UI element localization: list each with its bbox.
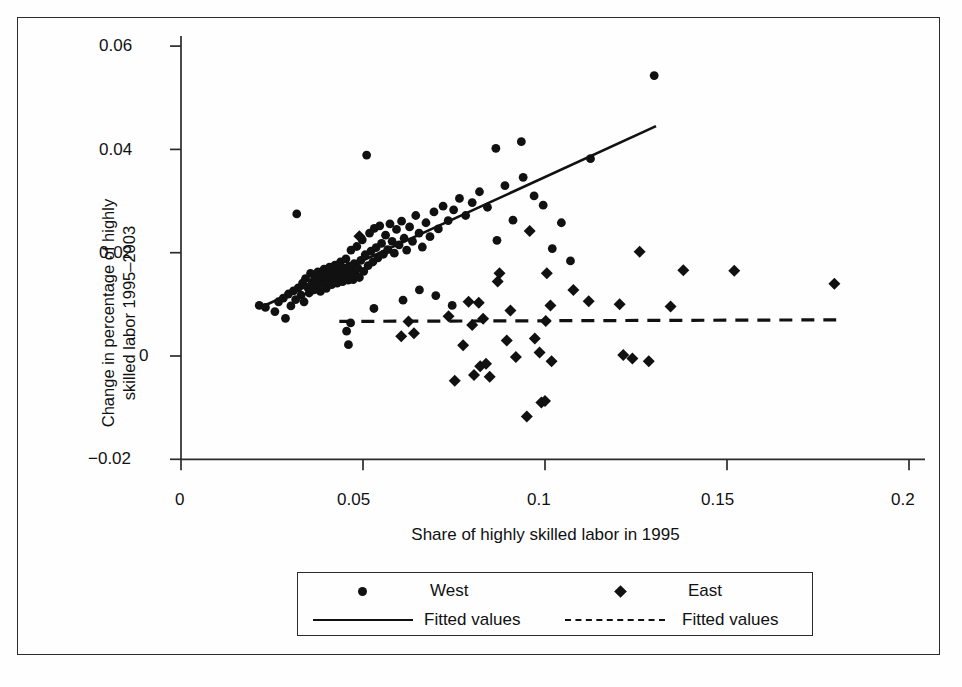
x-tick-label-2: 0.1: [527, 490, 551, 510]
data-point-east: [634, 246, 646, 258]
data-point-east: [728, 265, 740, 277]
data-point-west: [566, 257, 575, 266]
data-point-east: [534, 346, 546, 358]
data-point-west: [370, 304, 379, 313]
data-point-west: [539, 201, 548, 210]
legend-marker-east: [556, 575, 684, 607]
legend-label-west-fit: Fitted values: [424, 604, 520, 636]
data-point-west: [431, 291, 440, 300]
data-point-west: [408, 237, 417, 246]
data-point-east: [614, 298, 626, 310]
data-point-west: [415, 229, 424, 238]
data-point-west: [483, 203, 492, 212]
data-point-east: [457, 339, 469, 351]
data-point-east: [529, 332, 541, 344]
data-point-east: [477, 313, 489, 325]
data-point-west: [548, 244, 557, 253]
y-tick-label-1: 0.04: [99, 140, 132, 160]
data-point-west: [399, 296, 408, 305]
data-point-west: [455, 194, 464, 203]
x-tick-label-0: 0: [175, 490, 184, 510]
data-point-west: [377, 239, 386, 248]
data-point-east: [677, 264, 689, 276]
data-point-west: [344, 340, 353, 349]
data-point-west: [346, 319, 355, 328]
data-point-west: [430, 207, 439, 216]
data-point-west: [501, 181, 510, 190]
data-point-west: [448, 301, 457, 310]
y-axis-label-line2: skilled labor 1995–2003: [119, 148, 140, 478]
data-point-west: [586, 154, 595, 163]
data-point-east: [510, 351, 522, 363]
data-point-west: [519, 173, 528, 182]
data-point-west: [300, 297, 309, 306]
figure-panel: Change in percentage of highly skilled l…: [0, 0, 962, 687]
data-point-east: [541, 267, 553, 279]
legend-label-east: East: [688, 575, 722, 607]
legend-marker-east-fit: [560, 604, 670, 636]
data-point-west: [444, 216, 453, 225]
data-point-west: [426, 232, 435, 241]
y-tick-label-4: −0.02: [88, 449, 131, 469]
data-point-west: [400, 234, 409, 243]
y-axis-label-line1: Change in percentage of highly: [98, 148, 119, 478]
data-point-east: [484, 371, 496, 383]
data-point-west: [390, 249, 399, 258]
data-point-west: [405, 222, 414, 231]
data-point-west: [475, 187, 484, 196]
data-point-west: [381, 231, 390, 240]
data-point-west: [493, 236, 502, 245]
data-point-east: [544, 299, 556, 311]
data-point-west: [418, 243, 427, 252]
data-point-east: [567, 284, 579, 296]
data-point-east: [546, 355, 558, 367]
data-point-west: [397, 217, 406, 226]
data-point-west: [362, 151, 371, 160]
data-point-west: [422, 218, 431, 227]
data-point-east: [473, 297, 485, 309]
data-point-east: [643, 355, 655, 367]
data-point-east: [583, 295, 595, 307]
data-point-east: [540, 315, 552, 327]
data-point-east: [665, 300, 677, 312]
legend-marker-west: [298, 575, 426, 607]
legend-marker-west-fit: [308, 604, 418, 636]
data-point-east: [504, 305, 516, 317]
legend-label-west: West: [430, 575, 468, 607]
data-point-west: [292, 210, 301, 219]
data-point-west: [271, 307, 280, 316]
data-point-east: [468, 369, 480, 381]
data-point-east: [494, 267, 506, 279]
data-point-west: [281, 314, 290, 323]
data-point-east: [501, 335, 513, 347]
data-point-west: [491, 144, 500, 153]
data-point-west: [261, 303, 270, 312]
data-point-west: [402, 246, 411, 255]
data-point-east: [524, 225, 536, 237]
data-point-west: [375, 221, 384, 230]
data-point-east: [828, 278, 840, 290]
x-tick-label-3: 0.15: [701, 490, 734, 510]
data-point-east: [521, 410, 533, 422]
y-tick-label-0: 0.06: [99, 36, 132, 56]
data-point-west: [557, 218, 566, 227]
data-point-west: [449, 205, 458, 214]
data-point-west: [439, 202, 448, 211]
x-axis-label: Share of highly skilled labor in 1995: [181, 525, 910, 545]
data-point-east: [408, 327, 420, 339]
x-tick-label-1: 0.05: [337, 490, 370, 510]
data-point-west: [461, 211, 470, 220]
data-point-west: [392, 225, 401, 234]
data-point-west: [517, 137, 526, 146]
data-point-west: [650, 71, 659, 80]
y-axis-label: Change in percentage of highly skilled l…: [98, 148, 140, 478]
data-point-west: [468, 198, 477, 207]
y-tick-label-2: 0.02: [99, 243, 132, 263]
x-tick-label-4: 0.2: [891, 490, 915, 510]
data-point-west: [411, 211, 420, 220]
data-point-west: [434, 225, 443, 234]
data-point-east: [403, 315, 415, 327]
legend-box: West East Fitted values Fitted values: [297, 572, 813, 636]
data-point-east: [449, 375, 461, 387]
data-point-west: [415, 285, 424, 294]
